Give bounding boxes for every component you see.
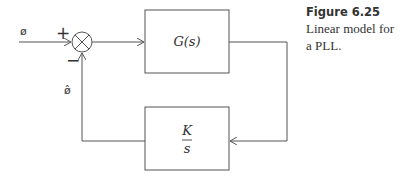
minus-sign: −: [66, 50, 80, 70]
forward-block: G(s): [145, 10, 229, 73]
caption-line-1: Linear model for: [306, 20, 394, 37]
feedback-return-line: [82, 53, 145, 141]
feedback-block: K s: [145, 107, 229, 170]
feedback-label: ø̂: [64, 84, 71, 97]
feedback-denominator: s: [184, 141, 191, 156]
forward-block-label: G(s): [173, 34, 200, 49]
input-label: ø: [20, 25, 27, 38]
feedback-numerator: K: [181, 123, 193, 138]
output-feedback-line: [229, 42, 287, 141]
caption-line-2: a PLL.: [306, 37, 394, 54]
figure-caption: Figure 6.25 Linear model for a PLL.: [306, 4, 394, 54]
figure-number: Figure 6.25: [306, 4, 394, 20]
summing-junction: [72, 32, 92, 52]
plus-sign: +: [56, 23, 70, 43]
